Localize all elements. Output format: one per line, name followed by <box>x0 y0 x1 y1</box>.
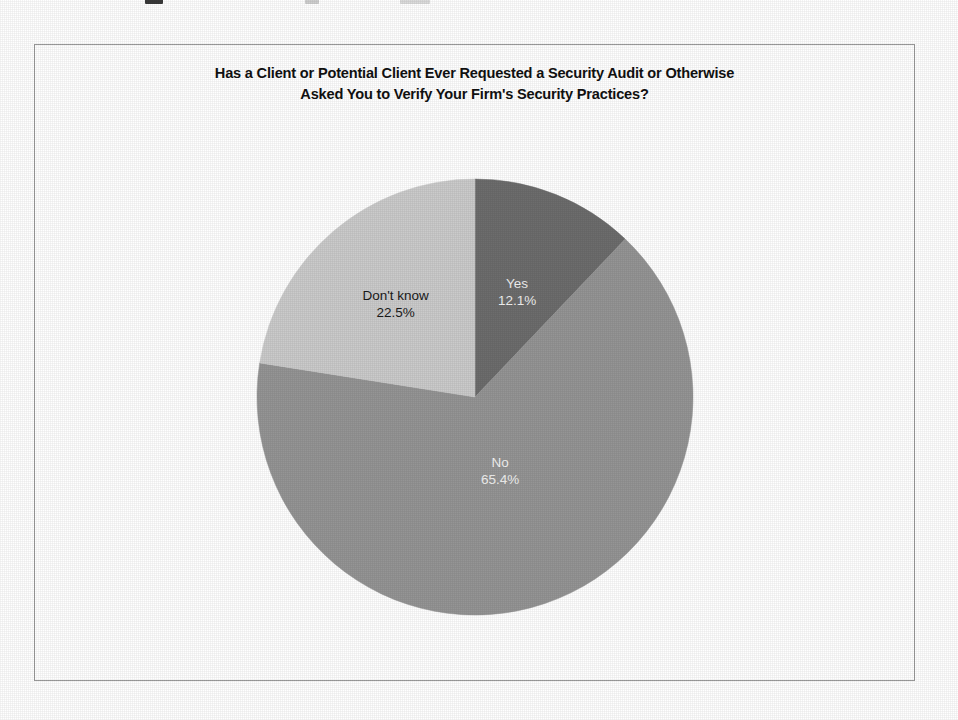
pie-slice-label-yes-value: 12.1% <box>498 292 536 309</box>
pie-chart: Yes 12.1% No 65.4% Don't know 22.5% <box>35 45 916 682</box>
scan-artifact-fragment <box>400 0 430 4</box>
pie-slice-label-dont-know-value: 22.5% <box>363 304 429 321</box>
pie-slice-label-no-value: 65.4% <box>481 471 519 488</box>
scan-artifact-top-edge <box>0 0 958 7</box>
chart-frame: Has a Client or Potential Client Ever Re… <box>34 44 915 681</box>
pie-slice-label-yes-name: Yes <box>498 275 536 292</box>
pie-chart-svg <box>35 45 916 682</box>
pie-slice-group <box>257 179 693 615</box>
pie-slice-label-dont-know-name: Don't know <box>363 287 429 304</box>
scan-artifact-fragment <box>145 0 163 4</box>
scan-artifact-fragment <box>305 0 319 4</box>
pie-slice-label-no-name: No <box>481 454 519 471</box>
pie-slice-label-no: No 65.4% <box>481 454 519 488</box>
pie-slice-label-yes: Yes 12.1% <box>498 275 536 309</box>
pie-slice-label-dont-know: Don't know 22.5% <box>363 287 429 321</box>
